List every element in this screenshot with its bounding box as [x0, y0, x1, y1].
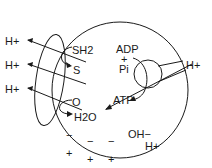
proton-label-2: H+ [5, 59, 19, 71]
s-label: S [73, 64, 80, 76]
chemiosmotic-diagram: H+ H+ H+ SH2 S O H2O ADP + Pi ATP H+ − −… [0, 0, 212, 168]
minus-sign-2: − [87, 135, 93, 147]
plus-sign-1: + [66, 147, 72, 159]
minus-sign-3: − [108, 135, 114, 147]
plus-sign-3: + [108, 153, 114, 165]
outside-proton-label: H+ [145, 140, 159, 152]
atp-synthase-stalk-bottom [160, 70, 186, 81]
hydroxide-label: OH− [128, 128, 151, 140]
sh2-label: SH2 [72, 44, 93, 56]
h2o-label: H2O [74, 111, 97, 123]
proton-label-3: H+ [5, 83, 19, 95]
minus-sign-1: − [66, 129, 72, 141]
atp-label: ATP [113, 94, 134, 106]
proton-label-1: H+ [5, 35, 19, 47]
atp-synthase-stalk-top [158, 61, 183, 66]
atp-synthase-head [134, 60, 162, 88]
o-label: O [72, 96, 81, 108]
pi-label: Pi [119, 63, 129, 75]
plus-sign-2: + [87, 153, 93, 165]
atp-proton-label: H+ [186, 59, 200, 71]
